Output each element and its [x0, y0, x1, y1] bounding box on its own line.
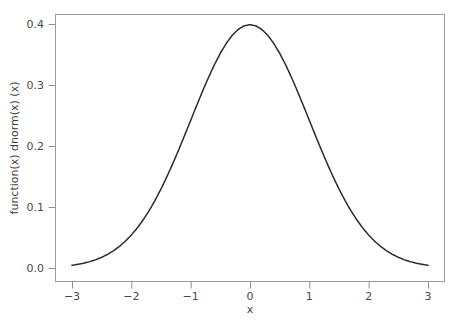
- y-axis-title: function(x) dnorm(x) (x): [8, 82, 21, 215]
- x-tick-label: 2: [365, 290, 372, 303]
- plot-figure: −3−2−10123 0.00.10.20.30.4 x function(x)…: [0, 0, 457, 323]
- figure-background: [0, 0, 457, 323]
- x-tick-label: −3: [64, 290, 80, 303]
- y-tick-label: 0.4: [27, 18, 45, 31]
- x-tick-label: −2: [123, 290, 139, 303]
- x-tick-label: 1: [306, 290, 313, 303]
- x-axis-title: x: [247, 303, 254, 316]
- y-tick-label: 0.3: [27, 79, 45, 92]
- x-tick-label: 3: [425, 290, 432, 303]
- y-tick-label: 0.2: [27, 140, 45, 153]
- x-tick-label: −1: [183, 290, 199, 303]
- plot-canvas: −3−2−10123 0.00.10.20.30.4 x function(x)…: [0, 0, 457, 323]
- y-tick-label: 0.0: [27, 262, 45, 275]
- x-tick-label: 0: [247, 290, 254, 303]
- y-tick-label: 0.1: [27, 201, 45, 214]
